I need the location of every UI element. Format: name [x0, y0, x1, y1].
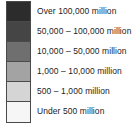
legend-label-500-1000-million: 500 – 1,000 million — [37, 81, 131, 101]
swatch-over-100000-million — [7, 2, 30, 22]
legend-body: Over 100,000 million 50,000 – 100,000 mi… — [0, 0, 137, 125]
legend-label-under-500-million: Under 500 million — [37, 101, 131, 121]
swatch-10000-50000-million — [7, 42, 30, 62]
swatch-500-1000-million — [7, 82, 30, 102]
legend-label-1000-10000-million: 1,000 – 10,000 million — [37, 61, 131, 81]
swatch-50000-100000-million — [7, 22, 30, 42]
swatch-under-500-million — [7, 102, 30, 122]
legend-swatch-column — [6, 1, 31, 123]
map-legend: Over 100,000 million 50,000 – 100,000 mi… — [0, 0, 137, 125]
legend-label-50000-100000-million: 50,000 – 100,000 million — [37, 21, 131, 41]
swatch-1000-10000-million — [7, 62, 30, 82]
legend-label-10000-50000-million: 10,000 – 50,000 million — [37, 41, 131, 61]
legend-label-over-100000-million: Over 100,000 million — [37, 1, 131, 21]
legend-label-column: Over 100,000 million 50,000 – 100,000 mi… — [37, 1, 137, 121]
